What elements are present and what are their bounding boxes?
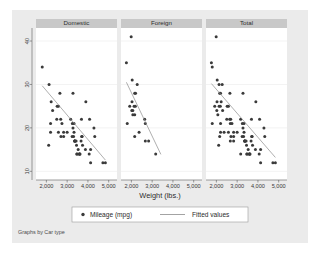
data-point	[55, 118, 58, 121]
data-point	[41, 66, 44, 69]
data-point	[258, 152, 261, 155]
y-axis-tick-label: 10	[24, 168, 30, 174]
data-point	[75, 144, 78, 147]
y-axis-tick-label: 30	[24, 81, 30, 87]
data-point	[133, 113, 136, 116]
legend-marker-label: Mileage (mpg)	[90, 211, 132, 219]
data-point	[81, 135, 84, 138]
data-point	[216, 113, 219, 116]
graph-note: Graphs by Car type	[18, 229, 65, 235]
data-point	[92, 126, 95, 129]
x-axis-tick-label: 4,000	[81, 183, 95, 189]
data-point	[131, 79, 134, 82]
data-point	[71, 126, 74, 129]
x-axis-tick-label: 5,000	[102, 183, 116, 189]
data-point	[239, 152, 242, 155]
data-point	[221, 83, 224, 86]
data-point	[71, 92, 74, 95]
y-axis-tick-label: 20	[24, 125, 30, 131]
data-point	[251, 144, 254, 147]
data-point	[250, 118, 253, 121]
data-point	[247, 148, 250, 151]
data-point	[136, 83, 139, 86]
panel-plot-area	[121, 28, 202, 180]
data-point	[57, 131, 60, 134]
data-point	[232, 131, 235, 134]
data-point	[213, 105, 216, 108]
x-axis-tick-label: 2,000	[39, 183, 53, 189]
data-point	[58, 92, 61, 95]
data-point	[219, 122, 222, 125]
y-axis-tick-label: 40	[24, 38, 30, 44]
x-axis-tick-label: 3,000	[60, 183, 74, 189]
data-point	[262, 126, 265, 129]
data-point	[243, 131, 246, 134]
scatter-panel-chart: 10203040Domestic2,0003,0004,0005,000Fore…	[0, 0, 320, 253]
data-point	[211, 122, 214, 125]
x-axis-tick-label: 2,000	[124, 183, 138, 189]
data-point	[48, 83, 51, 86]
data-point	[228, 92, 231, 95]
data-point	[219, 131, 222, 134]
data-point	[134, 92, 137, 95]
data-point	[154, 152, 157, 155]
x-axis-tick-label: 5,000	[272, 183, 286, 189]
data-point	[254, 100, 257, 103]
data-point	[71, 135, 74, 138]
data-point	[221, 109, 224, 112]
data-point	[131, 100, 134, 103]
data-point	[259, 148, 262, 151]
data-point	[88, 118, 91, 121]
data-point	[229, 122, 232, 125]
data-point	[66, 131, 69, 134]
data-point	[259, 161, 262, 164]
data-point	[232, 135, 235, 138]
data-point	[219, 105, 222, 108]
data-point	[228, 118, 231, 121]
data-point	[62, 131, 65, 134]
panel-title-domestic: Domestic	[64, 19, 90, 26]
data-point	[263, 135, 266, 138]
data-point	[144, 139, 147, 142]
data-point	[245, 144, 248, 147]
data-point	[133, 135, 136, 138]
data-point	[241, 126, 244, 129]
data-point	[89, 161, 92, 164]
data-point	[125, 61, 128, 64]
data-point	[128, 105, 131, 108]
data-point	[215, 35, 218, 38]
data-point	[229, 139, 232, 142]
data-point	[229, 135, 232, 138]
data-point	[241, 122, 244, 125]
data-point	[126, 122, 129, 125]
data-point	[77, 148, 80, 151]
data-point	[73, 131, 76, 134]
data-point	[47, 144, 50, 147]
data-point	[218, 83, 221, 86]
data-point	[88, 152, 91, 155]
data-point	[84, 148, 87, 151]
data-point	[51, 109, 54, 112]
data-point	[254, 148, 257, 151]
data-point	[247, 152, 250, 155]
data-point	[217, 144, 220, 147]
data-point	[227, 105, 230, 108]
legend-marker-icon	[81, 213, 84, 216]
data-point	[241, 92, 244, 95]
data-point	[50, 100, 53, 103]
data-point	[220, 100, 223, 103]
data-point	[75, 139, 78, 142]
chart-canvas: 10203040Domestic2,0003,0004,0005,000Fore…	[18, 19, 287, 235]
data-point	[81, 144, 84, 147]
data-point	[59, 118, 62, 121]
data-point	[138, 131, 141, 134]
data-point	[215, 109, 218, 112]
data-point	[218, 135, 221, 138]
data-point	[271, 161, 274, 164]
data-point	[232, 139, 235, 142]
x-axis-tick-label: 4,000	[251, 183, 265, 189]
data-point	[211, 66, 214, 69]
data-point	[49, 131, 52, 134]
data-point	[80, 118, 83, 121]
data-point	[241, 135, 244, 138]
